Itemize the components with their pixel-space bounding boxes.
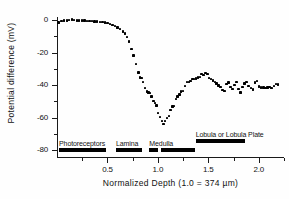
data-point <box>73 19 75 21</box>
data-point <box>195 77 197 79</box>
data-point <box>193 78 195 80</box>
data-point <box>180 90 182 92</box>
x-tick-1 <box>158 158 159 163</box>
data-point <box>182 90 184 92</box>
x-tick-label-1.5: 1.5 <box>196 166 220 174</box>
region-label-lobula: Lobula or Lobula Plate <box>196 131 264 138</box>
data-point <box>147 91 149 93</box>
data-point <box>262 86 264 88</box>
data-point <box>252 88 254 90</box>
x-tick-minor-1.75 <box>234 158 235 161</box>
data-point <box>173 105 175 107</box>
data-point <box>223 90 225 92</box>
data-point <box>124 32 126 34</box>
y-tick--20 <box>52 53 57 54</box>
x-tick-label-2: 2.0 <box>247 166 271 174</box>
data-point <box>270 87 272 89</box>
data-point <box>152 100 154 102</box>
data-point <box>268 86 270 88</box>
data-point <box>86 20 88 22</box>
data-point <box>119 28 121 30</box>
data-point <box>83 19 85 21</box>
region-label-lamina: Lamina <box>116 140 138 147</box>
data-point <box>137 71 139 73</box>
data-point <box>116 26 118 28</box>
data-point <box>68 19 70 21</box>
data-point <box>111 24 113 26</box>
x-tick-label-1: 1.0 <box>146 166 170 174</box>
data-point <box>266 86 268 88</box>
data-point <box>159 116 161 118</box>
data-point <box>237 88 239 90</box>
data-point <box>214 81 216 83</box>
data-point <box>178 93 180 95</box>
data-point <box>210 78 212 80</box>
data-point <box>168 115 170 117</box>
region-bar-photoreceptors <box>59 148 106 152</box>
data-point <box>126 36 128 38</box>
x-tick-minor-0.25 <box>82 158 83 161</box>
data-point <box>189 80 191 82</box>
x-tick-label-0.5: 0.5 <box>95 166 119 174</box>
data-point <box>239 91 241 93</box>
data-point <box>154 102 156 104</box>
data-point <box>140 77 142 79</box>
y-tick-minor-10 <box>54 36 57 37</box>
data-point <box>109 23 111 25</box>
data-point <box>63 19 65 21</box>
data-point <box>66 19 68 21</box>
region-bar-lamina <box>116 148 142 152</box>
data-point <box>132 54 134 56</box>
data-point <box>231 88 233 90</box>
y-axis-title: Potential difference (mV) <box>6 13 16 133</box>
data-point <box>114 25 116 27</box>
scatter-plot-area <box>0 0 289 199</box>
data-point <box>166 117 168 119</box>
data-point <box>197 76 199 78</box>
data-point <box>162 123 164 125</box>
data-point <box>258 85 260 87</box>
y-tick-label--60: -60 <box>22 114 48 122</box>
y-tick-label--40: -40 <box>22 81 48 89</box>
data-point <box>142 81 144 83</box>
data-point <box>254 81 256 83</box>
region-label-photoreceptors: Photoreceptors <box>59 140 105 147</box>
data-point <box>122 30 124 32</box>
data-point <box>264 87 266 89</box>
x-axis-line <box>57 157 284 158</box>
data-point <box>104 21 106 23</box>
data-point <box>139 76 141 78</box>
data-point <box>221 89 223 91</box>
data-point <box>217 84 219 86</box>
data-point <box>150 95 152 97</box>
data-point <box>130 48 132 50</box>
y-tick-minor-30 <box>54 69 57 70</box>
region-label-medulla: Medulla <box>149 140 173 147</box>
data-point <box>106 22 108 24</box>
data-point <box>161 120 163 122</box>
data-point <box>191 78 193 80</box>
data-point <box>164 120 166 122</box>
region-bar-lobula <box>196 139 245 143</box>
data-point <box>157 112 159 114</box>
data-point <box>229 86 231 88</box>
data-point <box>184 85 186 87</box>
x-tick-minor-0.75 <box>133 158 134 161</box>
data-point <box>204 72 206 74</box>
data-point <box>101 21 103 23</box>
x-tick-1.5 <box>208 158 209 163</box>
data-point <box>208 77 210 79</box>
x-tick-2 <box>259 158 260 163</box>
data-point <box>215 82 217 84</box>
y-tick--80 <box>52 150 57 151</box>
region-bar <box>161 148 195 152</box>
data-point <box>128 40 130 42</box>
data-point <box>235 81 237 83</box>
y-tick--40 <box>52 85 57 86</box>
data-point <box>206 73 208 75</box>
figure-container: 0-20-40-60-80 0.51.01.52.0 Potential dif… <box>0 0 289 199</box>
data-point <box>243 82 245 84</box>
data-point <box>188 81 190 83</box>
data-point <box>91 20 93 22</box>
y-axis-line <box>57 17 58 158</box>
